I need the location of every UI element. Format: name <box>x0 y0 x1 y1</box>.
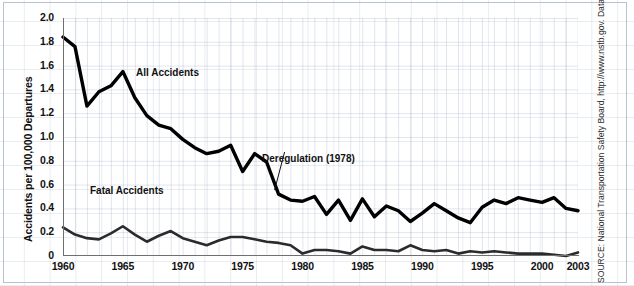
y-tick-label: 1.4 <box>2 82 54 94</box>
source-note: SOURCE: National Transportation Safety B… <box>596 1 608 283</box>
x-tick-label: 1970 <box>160 260 206 272</box>
x-tick-label: 2003 <box>555 260 601 272</box>
label-fatal-accidents: Fatal Accidents <box>90 185 164 196</box>
x-tick-label: 1990 <box>399 260 445 272</box>
y-tick-label: 2.0 <box>2 11 54 23</box>
x-tick-label: 1965 <box>100 260 146 272</box>
line-fatal-accidents <box>63 226 578 256</box>
y-tick-label: 0.2 <box>2 225 54 237</box>
y-tick-label: 1.6 <box>2 59 54 71</box>
y-tick-label: 1.0 <box>2 130 54 142</box>
x-tick-label: 1985 <box>339 260 385 272</box>
y-axis-line <box>63 18 64 256</box>
x-axis-line <box>63 255 579 256</box>
plot-area <box>63 18 578 256</box>
label-all-accidents: All Accidents <box>136 67 199 78</box>
y-tick-label: 1.2 <box>2 106 54 118</box>
y-tick-label: 0.6 <box>2 178 54 190</box>
x-tick-label: 1980 <box>280 260 326 272</box>
y-tick-label: 0.8 <box>2 154 54 166</box>
x-tick-label: 1975 <box>220 260 266 272</box>
x-tick-label: 1960 <box>40 260 86 272</box>
y-tick-label: 1.8 <box>2 35 54 47</box>
y-tick-label: 0.4 <box>2 201 54 213</box>
data-lines <box>63 18 578 256</box>
label-deregulation: Deregulation (1978) <box>262 153 355 164</box>
x-tick-label: 1995 <box>459 260 505 272</box>
chart-figure: Accidents per 100,000 Departures 2.01.81… <box>0 0 634 286</box>
